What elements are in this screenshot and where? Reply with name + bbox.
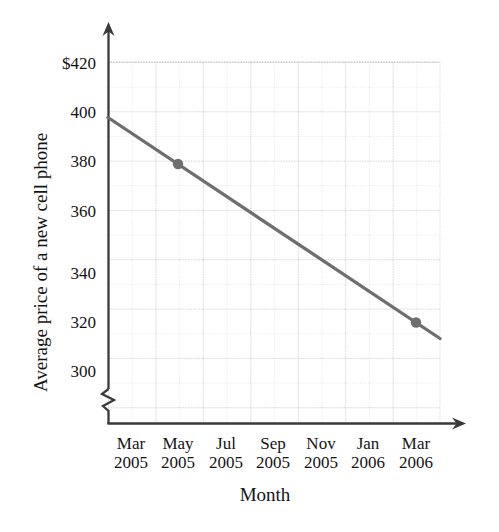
x-tick-label-nov-2005: Nov 2005 [304, 434, 338, 472]
x-tick-month: Nov [304, 434, 338, 453]
x-tick-label-mar-2006: Mar 2006 [399, 434, 433, 472]
x-tick-year: 2005 [256, 453, 290, 472]
x-tick-year: 2005 [161, 453, 195, 472]
x-tick-month: Jan [351, 434, 385, 453]
plot-grid [108, 62, 440, 424]
x-tick-label-sep-2005: Sep 2005 [256, 434, 290, 472]
x-tick-year: 2005 [114, 453, 148, 472]
x-tick-month: May [161, 434, 195, 453]
x-tick-label-mar-2005: Mar 2005 [114, 434, 148, 472]
y-tick-label-420: $420 [28, 55, 96, 72]
x-tick-month: Sep [256, 434, 290, 453]
y-axis-title: Average price of a new cell phone [30, 133, 52, 392]
x-tick-year: 2006 [351, 453, 385, 472]
x-tick-month: Mar [114, 434, 148, 453]
price-vs-month-line-chart: $420 400 380 360 340 320 300 Mar 2005 Ma… [0, 0, 499, 532]
data-point-may-2005 [173, 159, 183, 169]
x-tick-month: Jul [209, 434, 243, 453]
x-tick-year: 2005 [209, 453, 243, 472]
x-tick-year: 2006 [399, 453, 433, 472]
x-tick-label-may-2005: May 2005 [161, 434, 195, 472]
x-tick-year: 2005 [304, 453, 338, 472]
x-tick-month: Mar [399, 434, 433, 453]
x-tick-label-jan-2006: Jan 2006 [351, 434, 385, 472]
x-tick-label-jul-2005: Jul 2005 [209, 434, 243, 472]
x-axis-title: Month [240, 484, 291, 506]
y-tick-label-400: 400 [28, 104, 96, 121]
data-point-mar-2006 [411, 317, 421, 327]
